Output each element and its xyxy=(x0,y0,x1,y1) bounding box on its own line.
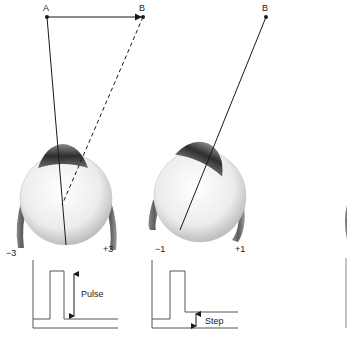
right-panel: B −1 +1 Step xyxy=(149,3,268,328)
right-scale-minus: −1 xyxy=(155,244,165,254)
point-b-label: B xyxy=(139,3,145,13)
saccade-diagram: A B −3 +3 Pulse B xyxy=(0,0,347,337)
step-label: Step xyxy=(205,316,224,326)
right-scale-plus: +1 xyxy=(235,244,245,254)
right-eyeball xyxy=(154,150,246,242)
left-scale-minus: −3 xyxy=(6,248,16,258)
point-a-label: A xyxy=(43,3,49,13)
left-scale-plus: +3 xyxy=(103,244,113,254)
pulse-waveform xyxy=(33,271,118,319)
left-eyeball xyxy=(20,153,112,245)
pulse-label: Pulse xyxy=(81,289,104,299)
step-waveform xyxy=(152,271,238,319)
left-panel: A B −3 +3 Pulse xyxy=(6,3,145,328)
point-b-right-label: B xyxy=(262,3,268,13)
